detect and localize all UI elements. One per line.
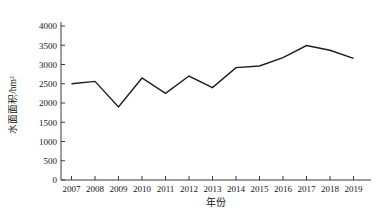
y-tick-label: 2000 — [39, 98, 58, 108]
y-axis-label: 水面面积/hm² — [7, 76, 18, 134]
x-tick-label: 2007 — [63, 184, 82, 194]
y-tick-label: 1000 — [39, 137, 58, 147]
y-axis-tick-labels: 05001000150020002500300035004000 — [39, 21, 58, 185]
x-axis-ticks — [72, 176, 354, 180]
y-tick-label: 2500 — [39, 79, 58, 89]
y-tick-label: 4000 — [39, 21, 58, 31]
x-tick-label: 2019 — [345, 184, 364, 194]
line-chart: 05001000150020002500300035004000 2007200… — [0, 0, 386, 223]
y-tick-label: 3000 — [39, 60, 58, 70]
x-tick-label: 2017 — [298, 184, 317, 194]
y-axis-ticks — [61, 26, 65, 180]
x-tick-label: 2012 — [180, 184, 198, 194]
axes-spines — [61, 22, 371, 180]
x-tick-label: 2010 — [133, 184, 152, 194]
y-tick-label: 3500 — [39, 41, 58, 51]
x-tick-label: 2013 — [204, 184, 223, 194]
x-tick-label: 2008 — [86, 184, 105, 194]
x-tick-label: 2011 — [157, 184, 175, 194]
x-tick-label: 2015 — [251, 184, 270, 194]
x-tick-label: 2014 — [227, 184, 246, 194]
x-axis-tick-labels: 2007200820092010201120122013201420152016… — [63, 184, 364, 194]
y-tick-label: 1500 — [39, 118, 58, 128]
chart-canvas: 05001000150020002500300035004000 2007200… — [0, 0, 386, 223]
data-line-series — [72, 46, 354, 107]
x-tick-label: 2009 — [110, 184, 129, 194]
x-axis-label: 年份 — [206, 196, 226, 208]
y-tick-label: 0 — [53, 175, 58, 185]
y-tick-label: 500 — [44, 156, 58, 166]
x-tick-label: 2016 — [274, 184, 293, 194]
x-tick-label: 2018 — [321, 184, 340, 194]
